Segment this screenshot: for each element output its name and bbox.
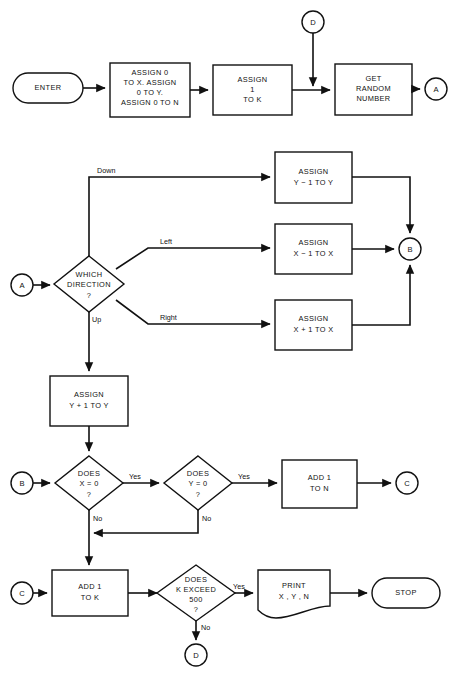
edge-label-up: Up (92, 315, 101, 324)
node-x-minus: ASSIGN X − 1 TO X (275, 224, 352, 274)
node-assign-k-line2: 1 (250, 85, 254, 94)
node-y-plus-line1: ASSIGN (74, 390, 104, 399)
node-enter: ENTER (13, 73, 83, 103)
edge-label-yes-x: Yes (129, 472, 141, 481)
node-does-y-zero-line1: DOES (187, 469, 209, 478)
node-stop-label: STOP (395, 588, 416, 597)
node-does-k-exceed-line4: ? (194, 605, 198, 614)
node-add-k-line1: ADD 1 (78, 582, 102, 591)
connector-c-right-label: C (404, 479, 410, 488)
connector-c-right: C (396, 472, 418, 494)
connector-c-left-label: C (19, 589, 25, 598)
edge-right-branch (116, 300, 270, 324)
connector-d-bottom-label: D (193, 651, 199, 660)
node-which-direction-line3: ? (87, 291, 91, 300)
connector-b-right-label: B (407, 245, 412, 254)
edge-label-yes-k: Yes (233, 582, 245, 591)
connector-c-left: C (11, 582, 33, 604)
connector-a-top: A (425, 78, 447, 100)
node-does-k-exceed-line1: DOES (185, 575, 207, 584)
node-does-x-zero: DOES X = 0 ? (55, 456, 123, 510)
node-init-line3: 0 TO Y. (137, 88, 164, 97)
node-x-minus-line2: X − 1 TO X (294, 249, 334, 258)
node-stop: STOP (372, 578, 440, 608)
node-does-k-exceed: DOES K EXCEED 500 ? (157, 565, 235, 621)
node-y-minus-line1: ASSIGN (298, 167, 328, 176)
node-get-random: GET RANDOM NUMBER (335, 64, 412, 115)
node-y-plus-line2: Y + 1 TO Y (69, 401, 109, 410)
node-enter-label: ENTER (35, 83, 62, 92)
edge-x-plus-to-b (352, 265, 410, 325)
node-add-n: ADD 1 TO N (282, 460, 357, 508)
edge-y-zero-no (94, 510, 198, 533)
connector-b-left-label: B (19, 479, 24, 488)
node-init-line1: ASSIGN 0 (132, 68, 169, 77)
node-print-line1: PRINT (282, 581, 306, 590)
connector-d-bottom: D (185, 644, 207, 666)
edge-y-minus-to-b (352, 177, 410, 233)
node-does-x-zero-line2: X = 0 (79, 479, 98, 488)
connector-d-top: D (302, 11, 324, 33)
node-init-line2: TO X. ASSIGN (124, 78, 177, 87)
node-y-plus: ASSIGN Y + 1 TO Y (50, 376, 128, 426)
node-assign-k: ASSIGN 1 TO K (213, 65, 292, 115)
edge-label-yes-y: Yes (238, 472, 250, 481)
edge-down-branch (89, 177, 270, 256)
node-does-x-zero-line3: ? (87, 490, 91, 499)
node-print-line2: X , Y , N (279, 592, 309, 601)
node-y-minus-line2: Y − 1 TO Y (294, 178, 334, 187)
node-get-random-line3: NUMBER (356, 94, 390, 103)
node-get-random-line1: GET (365, 74, 381, 83)
edge-left-branch (116, 248, 270, 269)
node-assign-k-line1: ASSIGN (237, 75, 267, 84)
flowchart-diagram: ENTER ASSIGN 0 TO X. ASSIGN 0 TO Y. ASSI… (0, 0, 460, 677)
node-x-plus-line1: ASSIGN (298, 314, 328, 323)
connector-a-left: A (11, 274, 33, 296)
node-which-direction-line1: WHICH (76, 270, 103, 279)
node-does-y-zero-line2: Y = 0 (188, 479, 207, 488)
edge-label-no-y: No (202, 514, 211, 523)
node-add-k-line2: TO K (81, 593, 100, 602)
node-add-n-line1: ADD 1 (308, 473, 332, 482)
connector-b-left: B (11, 472, 33, 494)
node-print: PRINT X , Y , N (258, 570, 330, 618)
node-does-y-zero: DOES Y = 0 ? (164, 456, 232, 510)
node-x-plus: ASSIGN X + 1 TO X (275, 300, 352, 350)
node-x-minus-line1: ASSIGN (298, 238, 328, 247)
node-does-x-zero-line1: DOES (78, 469, 100, 478)
connector-b-right: B (399, 238, 421, 260)
edge-label-right: Right (160, 313, 177, 322)
node-get-random-line2: RANDOM (356, 84, 391, 93)
edge-label-no-k: No (201, 623, 210, 632)
node-x-plus-line2: X + 1 TO X (294, 325, 334, 334)
edge-label-left: Left (160, 237, 172, 246)
node-init-line4: ASSIGN 0 TO N (121, 98, 179, 107)
node-which-direction: WHICH DIRECTION ? (54, 256, 124, 312)
node-y-minus: ASSIGN Y − 1 TO Y (275, 152, 352, 203)
edge-label-no-x: No (93, 514, 102, 523)
node-which-direction-line2: DIRECTION (67, 280, 111, 289)
node-init: ASSIGN 0 TO X. ASSIGN 0 TO Y. ASSIGN 0 T… (110, 63, 190, 117)
node-add-n-line2: TO N (310, 484, 329, 493)
node-assign-k-line3: TO K (243, 95, 262, 104)
edge-label-down: Down (97, 166, 115, 175)
node-does-y-zero-line3: ? (196, 490, 200, 499)
node-does-k-exceed-line3: 500 (189, 595, 202, 604)
node-add-k: ADD 1 TO K (52, 570, 128, 616)
connector-d-top-label: D (310, 18, 316, 27)
node-does-k-exceed-line2: K EXCEED (176, 585, 216, 594)
